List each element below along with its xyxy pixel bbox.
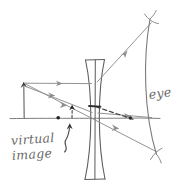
virtual-image-label-line-2: image [12,146,55,162]
ray-parallel-incident [24,81,92,87]
curly-pointer-arrow [65,123,73,152]
eye-label: eye [148,85,172,101]
optical-axis [10,118,160,119]
ray-parallel-refracted [97,23,152,83]
ray-secondary-incident [25,86,93,113]
virtual-image-label: virtual image [11,134,55,162]
optics-diagram: eye virtual image [0,0,186,195]
object-arrow [21,82,27,118]
